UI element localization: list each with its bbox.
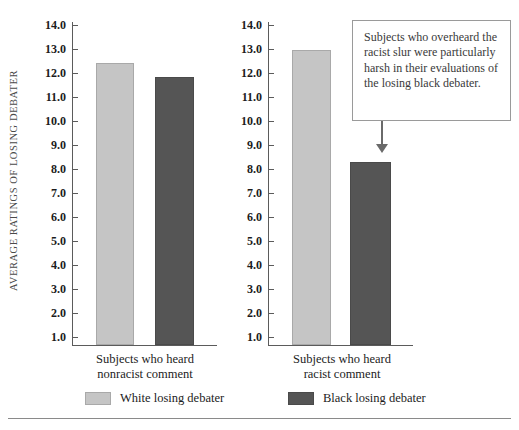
annotation-text: Subjects who overheard the racist slur w… (364, 30, 498, 90)
y-axis-tick (268, 145, 274, 146)
y-axis-tick-label: 3.0 (228, 283, 262, 295)
y-axis-tick (268, 241, 274, 242)
y-axis-tick (268, 289, 274, 290)
x-axis-caption-right: Subjects who heard racist comment (252, 352, 432, 382)
annotation-arrow-head-icon (376, 144, 388, 153)
caption-line-2: racist comment (252, 367, 432, 382)
y-axis-tick-label: 6.0 (228, 211, 262, 223)
legend-item-white-debater: White losing debater (85, 389, 224, 407)
bar-black-losing-debater (350, 162, 391, 345)
x-axis-line-right (268, 345, 413, 346)
y-axis-tick (268, 313, 274, 314)
y-axis-tick-label: 8.0 (228, 163, 262, 175)
y-axis-tick-label: 12.0 (228, 67, 262, 79)
legend: White losing debater Black losing debate… (0, 389, 519, 409)
y-axis-tick (268, 25, 274, 26)
y-axis-tick (268, 169, 274, 170)
y-axis-tick (268, 121, 274, 122)
y-axis-tick-label: 11.0 (228, 91, 262, 103)
y-axis-tick-label: 2.0 (228, 307, 262, 319)
y-axis-line-right (268, 22, 269, 346)
legend-label: White losing debater (120, 391, 224, 406)
annotation-callout: Subjects who overheard the racist slur w… (352, 20, 511, 121)
y-axis-tick-label: 14.0 (228, 19, 262, 31)
legend-item-black-debater: Black losing debater (288, 389, 426, 407)
y-axis-tick (268, 49, 274, 50)
y-axis-tick (268, 73, 274, 74)
legend-label: Black losing debater (323, 391, 426, 406)
y-axis-tick (268, 337, 274, 338)
bar-white-losing-debater (292, 50, 331, 345)
chart-canvas: AVERAGE RATINGS OF LOSING DEBATER 14.013… (0, 0, 519, 430)
y-axis-tick-label: 5.0 (228, 235, 262, 247)
y-axis-tick-label: 4.0 (228, 259, 262, 271)
y-axis-tick-label: 13.0 (228, 43, 262, 55)
legend-swatch-icon-black (288, 392, 314, 405)
y-axis-tick (268, 265, 274, 266)
y-axis-tick-label: 7.0 (228, 187, 262, 199)
y-axis-tick (268, 97, 274, 98)
y-axis-tick-label: 1.0 (228, 331, 262, 343)
y-axis-tick (268, 217, 274, 218)
caption-line-1: Subjects who heard (252, 352, 432, 367)
legend-swatch-icon-white (85, 392, 111, 405)
y-axis-tick-label: 10.0 (228, 115, 262, 127)
y-axis-tick (268, 193, 274, 194)
y-axis-tick-label: 9.0 (228, 139, 262, 151)
footer-divider (8, 418, 511, 419)
